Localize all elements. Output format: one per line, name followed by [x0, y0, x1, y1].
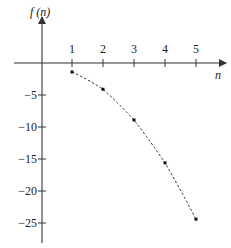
x-tick-label: 4 [162, 42, 168, 56]
y-tick-label: −20 [18, 184, 37, 198]
data-point [102, 88, 105, 91]
x-tick-label: 3 [131, 42, 137, 56]
data-series [71, 70, 198, 220]
x-tick-label: 1 [69, 42, 75, 56]
dashed-curve [72, 72, 196, 219]
data-point [133, 118, 136, 121]
data-point [195, 218, 198, 221]
x-tick-label: 5 [193, 42, 199, 56]
data-point [71, 70, 74, 73]
chart: 12345−5−10−15−20−25 f (n) n [0, 0, 231, 248]
y-tick-label: −25 [18, 216, 37, 230]
y-axis-label: f (n) [30, 5, 50, 19]
x-tick-label: 2 [100, 42, 106, 56]
y-tick-label: −5 [24, 88, 37, 102]
ticks: 12345−5−10−15−20−25 [18, 42, 199, 230]
x-axis-label: n [215, 68, 221, 82]
y-tick-label: −10 [18, 120, 37, 134]
data-point [164, 161, 167, 164]
y-tick-label: −15 [18, 152, 37, 166]
